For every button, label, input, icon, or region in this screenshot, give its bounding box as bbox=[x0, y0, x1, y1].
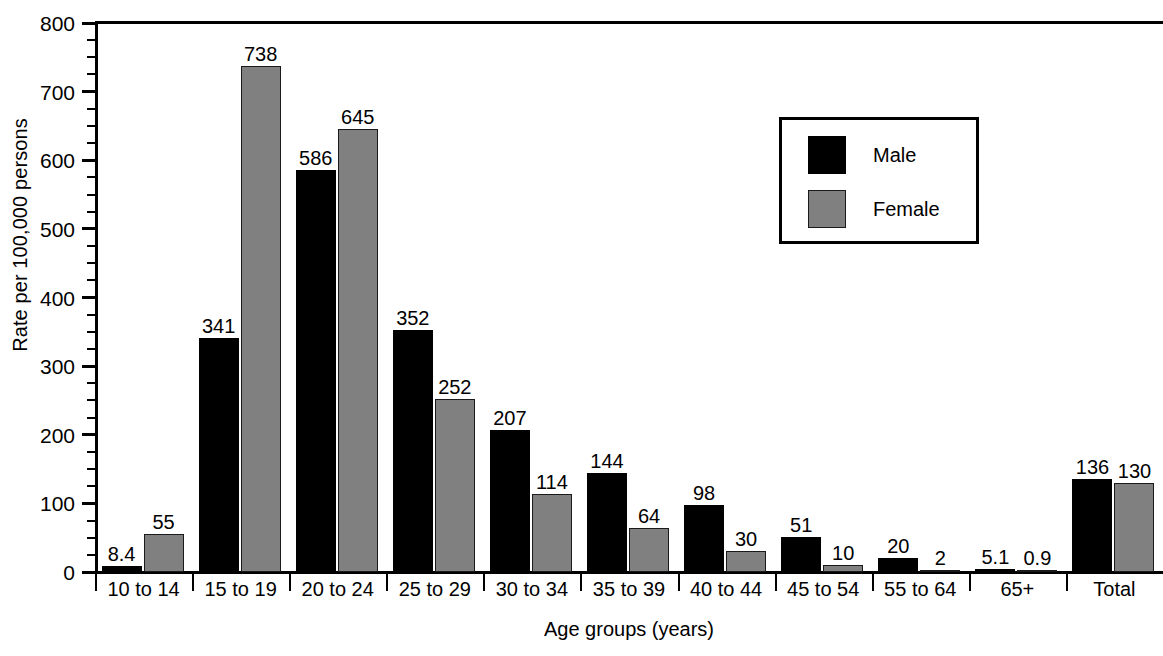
legend: Male Female bbox=[779, 117, 979, 244]
bar-value-label: 0.9 bbox=[1023, 548, 1051, 568]
legend-label-female: Female bbox=[873, 198, 940, 221]
x-group-label: 35 to 39 bbox=[580, 578, 677, 601]
bar-male: 5.1 bbox=[975, 569, 1015, 572]
bar-female: 30 bbox=[726, 551, 766, 572]
legend-label-male: Male bbox=[873, 144, 916, 167]
x-group-label: Total bbox=[1066, 578, 1163, 601]
bar-value-label: 20 bbox=[887, 536, 909, 556]
legend-item-female: Female bbox=[808, 190, 940, 228]
y-tick-minor bbox=[87, 554, 95, 556]
y-tick-minor bbox=[87, 399, 95, 401]
y-tick-label: 400 bbox=[40, 287, 75, 308]
y-tick-major bbox=[82, 571, 95, 574]
y-tick-minor bbox=[87, 56, 95, 58]
x-tick bbox=[872, 574, 874, 591]
bar-female: 10 bbox=[823, 565, 863, 572]
bar-female: 130 bbox=[1114, 483, 1154, 572]
y-tick-label: 500 bbox=[40, 218, 75, 239]
y-tick-label: 600 bbox=[40, 150, 75, 171]
bar-value-label: 51 bbox=[790, 515, 812, 535]
y-tick-minor bbox=[87, 245, 95, 247]
x-tick bbox=[192, 574, 194, 591]
x-tick bbox=[386, 574, 388, 591]
y-tick-minor bbox=[87, 39, 95, 41]
x-group-label: 55 to 64 bbox=[872, 578, 969, 601]
bar-value-label: 352 bbox=[396, 308, 429, 328]
x-axis-label: Age groups (years) bbox=[95, 618, 1163, 641]
bar-value-label: 130 bbox=[1118, 461, 1151, 481]
y-tick-major bbox=[82, 227, 95, 230]
y-tick-minor bbox=[87, 520, 95, 522]
x-group-label: 10 to 14 bbox=[95, 578, 192, 601]
bar-value-label: 114 bbox=[536, 472, 568, 492]
y-axis-label: Rate per 100,000 persons bbox=[3, 0, 37, 470]
y-tick-major bbox=[82, 296, 95, 299]
bar-value-label: 341 bbox=[202, 316, 235, 336]
bar-value-label: 645 bbox=[341, 107, 374, 127]
bar-female: 2 bbox=[920, 570, 960, 572]
bar-value-label: 98 bbox=[693, 483, 715, 503]
y-tick-minor bbox=[87, 537, 95, 539]
bar-value-label: 30 bbox=[735, 529, 757, 549]
x-group-label: 65+ bbox=[969, 578, 1066, 601]
x-tick bbox=[580, 574, 582, 591]
x-group-label: 40 to 44 bbox=[678, 578, 775, 601]
x-tick bbox=[678, 574, 680, 591]
x-group-label: 20 to 24 bbox=[289, 578, 386, 601]
bar-female: 114 bbox=[532, 494, 572, 572]
bar-female: 738 bbox=[241, 66, 281, 572]
y-tick-minor bbox=[87, 382, 95, 384]
bar-value-label: 55 bbox=[152, 512, 174, 532]
y-tick-minor bbox=[87, 125, 95, 127]
y-tick-minor bbox=[87, 108, 95, 110]
bar-female: 0.9 bbox=[1017, 570, 1057, 572]
y-tick-major bbox=[82, 159, 95, 162]
x-tick bbox=[289, 574, 291, 591]
bar-value-label: 10 bbox=[832, 543, 854, 563]
bar-chart-figure: Rate per 100,000 persons Age groups (yea… bbox=[0, 0, 1163, 656]
x-group-label: 25 to 29 bbox=[386, 578, 483, 601]
y-tick-label: 0 bbox=[63, 562, 75, 583]
x-tick bbox=[483, 574, 485, 591]
y-tick-minor bbox=[87, 485, 95, 487]
bar-value-label: 586 bbox=[299, 148, 332, 168]
legend-swatch-female-icon bbox=[808, 190, 846, 228]
bar-value-label: 252 bbox=[438, 377, 471, 397]
bar-value-label: 8.4 bbox=[108, 544, 136, 564]
y-tick-major bbox=[82, 90, 95, 93]
bar-male: 98 bbox=[684, 505, 724, 572]
y-tick-minor bbox=[87, 73, 95, 75]
y-tick-label: 700 bbox=[40, 81, 75, 102]
bar-male: 586 bbox=[296, 170, 336, 572]
x-tick bbox=[775, 574, 777, 591]
y-tick-label: 200 bbox=[40, 424, 75, 445]
bar-male: 136 bbox=[1072, 479, 1112, 572]
x-tick bbox=[95, 574, 97, 591]
x-tick bbox=[969, 574, 971, 591]
bar-male: 341 bbox=[199, 338, 239, 572]
bar-male: 51 bbox=[781, 537, 821, 572]
bar-value-label: 2 bbox=[935, 548, 946, 568]
x-tick bbox=[1066, 574, 1068, 591]
y-tick-minor bbox=[87, 331, 95, 333]
x-group-label: 30 to 34 bbox=[483, 578, 580, 601]
y-tick-major bbox=[82, 502, 95, 505]
bar-value-label: 207 bbox=[493, 408, 526, 428]
bar-value-label: 144 bbox=[590, 451, 623, 471]
y-tick-minor bbox=[87, 142, 95, 144]
y-tick-label: 300 bbox=[40, 356, 75, 377]
bar-female: 252 bbox=[435, 399, 475, 572]
y-tick-minor bbox=[87, 176, 95, 178]
bar-male: 352 bbox=[393, 330, 433, 572]
bar-value-label: 136 bbox=[1076, 457, 1109, 477]
bar-value-label: 64 bbox=[638, 506, 660, 526]
y-tick-minor bbox=[87, 417, 95, 419]
x-group-label: 15 to 19 bbox=[192, 578, 289, 601]
bar-value-label: 738 bbox=[244, 44, 277, 64]
bar-male: 207 bbox=[490, 430, 530, 572]
bar-value-label: 5.1 bbox=[981, 547, 1009, 567]
y-tick-minor bbox=[87, 194, 95, 196]
bar-female: 64 bbox=[629, 528, 669, 572]
y-tick-major bbox=[82, 365, 95, 368]
y-tick-major bbox=[82, 22, 95, 25]
